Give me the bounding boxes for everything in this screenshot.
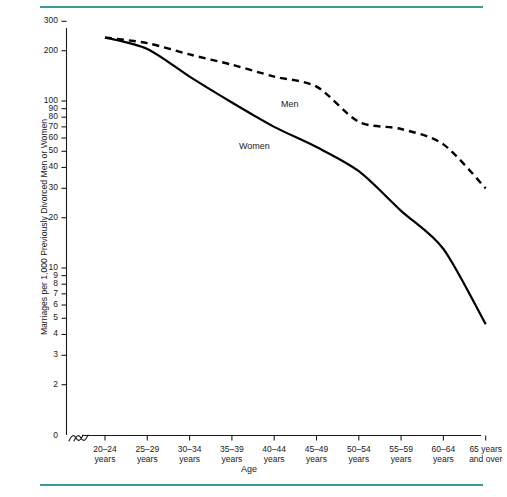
y-tick-label: 3 xyxy=(24,350,58,359)
x-tick-marks xyxy=(105,436,486,441)
x-tick-label: 65 yearsand over xyxy=(455,444,507,465)
series-line-men xyxy=(105,38,486,189)
x-tick-label-line2: and over xyxy=(455,454,507,465)
axes-group xyxy=(67,28,482,441)
y-tick-marks xyxy=(62,21,67,384)
y-tick-label: 2 xyxy=(24,380,58,389)
data-series-group xyxy=(105,38,486,325)
series-label-women: Women xyxy=(239,141,270,151)
x-tick-label-line1: 65 years xyxy=(455,444,507,455)
y-tick-label: 0 xyxy=(24,431,58,440)
y-tick-label: 200 xyxy=(24,46,58,55)
series-label-men: Men xyxy=(281,99,299,109)
y-tick-label: 300 xyxy=(24,16,58,25)
x-axis-title: Age xyxy=(0,464,498,474)
y-axis-title: Marriages per 1,000 Previously Divorced … xyxy=(39,107,49,347)
